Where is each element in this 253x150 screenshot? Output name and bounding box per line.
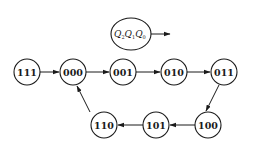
node-100: 100 bbox=[195, 112, 221, 138]
state-label: 000 bbox=[63, 67, 83, 78]
node-000: 000 bbox=[60, 59, 86, 85]
state-label: 011 bbox=[214, 67, 234, 78]
legend: Q2Q1Q0 bbox=[111, 18, 170, 50]
node-010: 010 bbox=[161, 59, 187, 85]
state-label: 101 bbox=[146, 120, 166, 131]
node-101: 101 bbox=[143, 112, 169, 138]
state-label: 111 bbox=[17, 67, 37, 78]
state-label: 001 bbox=[113, 67, 133, 78]
edge-110-000 bbox=[77, 86, 90, 112]
state-label: 110 bbox=[94, 120, 114, 131]
node-110: 110 bbox=[91, 112, 117, 138]
node-111: 111 bbox=[14, 59, 40, 85]
state-diagram: Q2Q1Q0 111 000 001 010 011 100 bbox=[0, 0, 253, 150]
state-label: 100 bbox=[198, 120, 218, 131]
node-011: 011 bbox=[211, 59, 237, 85]
state-label: 010 bbox=[164, 67, 184, 78]
edge-011-100 bbox=[206, 85, 219, 111]
legend-label: Q2Q1Q0 bbox=[114, 29, 146, 40]
node-001: 001 bbox=[110, 59, 136, 85]
